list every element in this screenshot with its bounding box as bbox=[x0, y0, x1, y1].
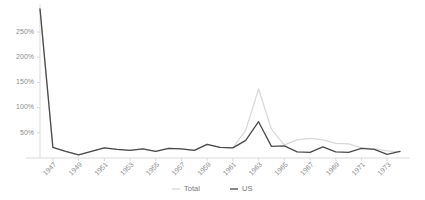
x-tick-label: 1961 bbox=[222, 161, 238, 177]
x-tick-label: 1969 bbox=[324, 161, 340, 177]
y-tick-label: 50% bbox=[20, 129, 34, 136]
y-tick-label: 150% bbox=[16, 78, 34, 85]
x-tick-label: 1955 bbox=[144, 161, 160, 177]
x-tick-label: 1957 bbox=[170, 161, 186, 177]
y-axis-ticks: 50%100%150%200%250% bbox=[16, 28, 40, 136]
x-tick-label: 1959 bbox=[196, 161, 212, 177]
legend-label-total[interactable]: Total bbox=[184, 184, 200, 193]
y-tick-label: 250% bbox=[16, 28, 34, 35]
x-tick-label: 1965 bbox=[273, 161, 289, 177]
x-axis-ticks: 1947194919511953195519571959196119631965… bbox=[42, 158, 392, 177]
line-chart: 50%100%150%200%250% 19471949195119531955… bbox=[0, 0, 425, 200]
chart-legend: TotalUS bbox=[172, 184, 252, 193]
x-tick-label: 1951 bbox=[93, 161, 109, 177]
x-tick-label: 1973 bbox=[376, 161, 392, 177]
series-line-total bbox=[40, 9, 400, 155]
x-tick-label: 1963 bbox=[247, 161, 263, 177]
x-tick-label: 1953 bbox=[119, 161, 135, 177]
legend-label-us[interactable]: US bbox=[242, 184, 252, 193]
y-tick-label: 100% bbox=[16, 103, 34, 110]
series-line-us bbox=[40, 9, 400, 155]
x-tick-label: 1967 bbox=[299, 161, 315, 177]
x-tick-label: 1971 bbox=[350, 161, 366, 177]
x-tick-label: 1947 bbox=[42, 161, 58, 177]
y-tick-label: 200% bbox=[16, 53, 34, 60]
chart-canvas: 50%100%150%200%250% 19471949195119531955… bbox=[0, 0, 425, 200]
x-tick-label: 1949 bbox=[67, 161, 83, 177]
